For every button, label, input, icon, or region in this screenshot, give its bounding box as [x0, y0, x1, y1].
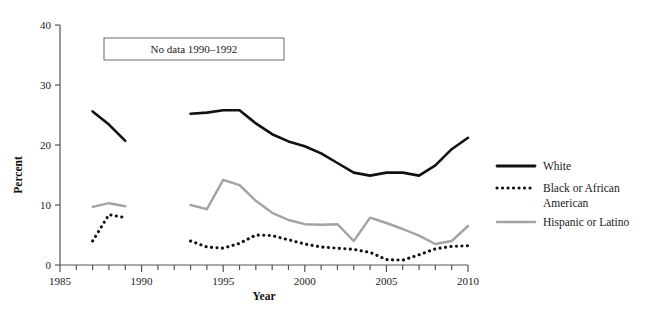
y-axis-tick-labels: 010203040 [40, 19, 52, 271]
series-line-segment [93, 111, 126, 140]
x-tick-label: 2000 [294, 275, 317, 287]
y-tick-label: 20 [40, 139, 52, 151]
x-tick-label: 2010 [457, 275, 480, 287]
series-black-or-african-american [93, 215, 468, 261]
series-line-segment [93, 215, 126, 241]
y-axis-ticks [55, 25, 60, 265]
x-axis-tick-labels: 198519901995200020052010 [49, 275, 480, 287]
series-line-segment [191, 110, 468, 175]
y-tick-label: 30 [40, 79, 52, 91]
legend-label-3: Hispanic or Latino [543, 216, 629, 229]
x-tick-label: 1995 [212, 275, 235, 287]
series-hispanic-or-latino [93, 180, 468, 244]
y-axis-title: Percent [12, 156, 24, 194]
x-tick-label: 1990 [131, 275, 154, 287]
no-data-annotation-label: No data 1990–1992 [151, 43, 238, 55]
chart-legend: WhiteBlack or AfricanAmericanHispanic or… [497, 160, 629, 229]
legend-label-1: White [543, 160, 571, 172]
x-axis-title: Year [253, 290, 276, 302]
series-white [93, 110, 468, 175]
x-axis-ticks [60, 265, 468, 272]
x-tick-label: 1985 [49, 275, 72, 287]
chart-container: 010203040 198519901995200020052010 Perce… [0, 0, 648, 318]
legend-label-2-line2: American [543, 197, 589, 209]
y-tick-label: 40 [40, 19, 52, 31]
series-line-segment [191, 180, 468, 244]
y-tick-label: 10 [40, 199, 52, 211]
line-chart: 010203040 198519901995200020052010 Perce… [0, 0, 648, 318]
legend-label-2: Black or African [543, 182, 620, 194]
series-line-segment [93, 203, 126, 207]
series-layer [93, 110, 468, 260]
x-tick-label: 2005 [375, 275, 398, 287]
no-data-annotation: No data 1990–1992 [104, 38, 284, 60]
y-tick-label: 0 [46, 259, 52, 271]
